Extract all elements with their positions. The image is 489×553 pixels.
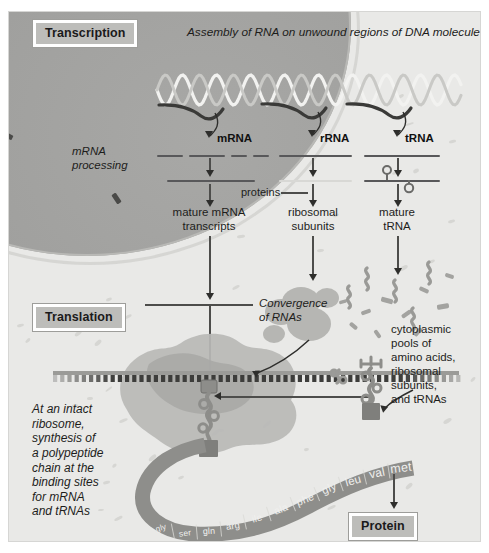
charged-trna: [361, 357, 381, 420]
section-chip-protein[interactable]: Protein: [349, 513, 417, 540]
cytoplasmic-pools-label: cytoplasmic pools of amino acids, riboso…: [391, 322, 456, 406]
figure-root: mRNA rRNA tRNA mRNA processing: [0, 0, 489, 553]
protein-output-line: [393, 474, 395, 504]
protein-output-arrow: [390, 502, 398, 509]
polypeptide-residue: val: [368, 465, 386, 482]
illustration-frame: mRNA rRNA tRNA mRNA processing: [9, 12, 480, 541]
section-chip-translation[interactable]: Translation: [33, 304, 125, 331]
ribosome-caption: At an intact ribosome, synthesis of a po…: [32, 402, 103, 519]
section-chip-transcription[interactable]: Transcription: [33, 20, 137, 47]
polypeptide-residue: ser: [178, 527, 191, 538]
figure-headline: Assembly of RNA on unwound regions of DN…: [187, 25, 480, 39]
free-trna: [331, 370, 346, 383]
polypeptide-residue: gln: [203, 526, 216, 537]
